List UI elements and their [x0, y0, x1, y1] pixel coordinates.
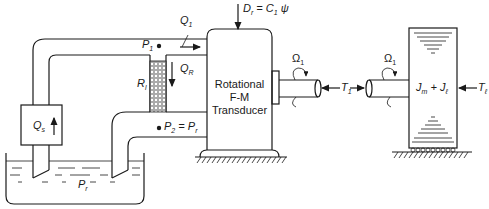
- pressure-p1-label: P1: [142, 38, 153, 52]
- transducer-line2: F-M: [207, 91, 272, 104]
- resistor-label: Rl: [137, 77, 147, 91]
- flow-q1-label: Q1: [180, 14, 192, 28]
- flow-qr-label: QR: [180, 62, 194, 76]
- pump-label: Qs: [33, 119, 45, 133]
- transducer-label: Rotational F-M Transducer: [207, 78, 272, 117]
- torque-t1-label: T1: [341, 81, 352, 95]
- displacement-label: Dr = C1 ψ: [243, 2, 289, 16]
- transducer-line3: Transducer: [207, 104, 272, 117]
- load-inertia-label: Jm + Jℓ: [416, 81, 448, 95]
- transducer-line1: Rotational: [207, 78, 272, 91]
- pressure-p2-label: P2 = Pr: [164, 120, 197, 134]
- load-torque-label: Tℓ: [478, 81, 487, 95]
- reservoir-label: Pr: [78, 178, 88, 192]
- omega-right-label: Ω1: [384, 52, 396, 66]
- omega-left-label: Ω1: [292, 52, 304, 66]
